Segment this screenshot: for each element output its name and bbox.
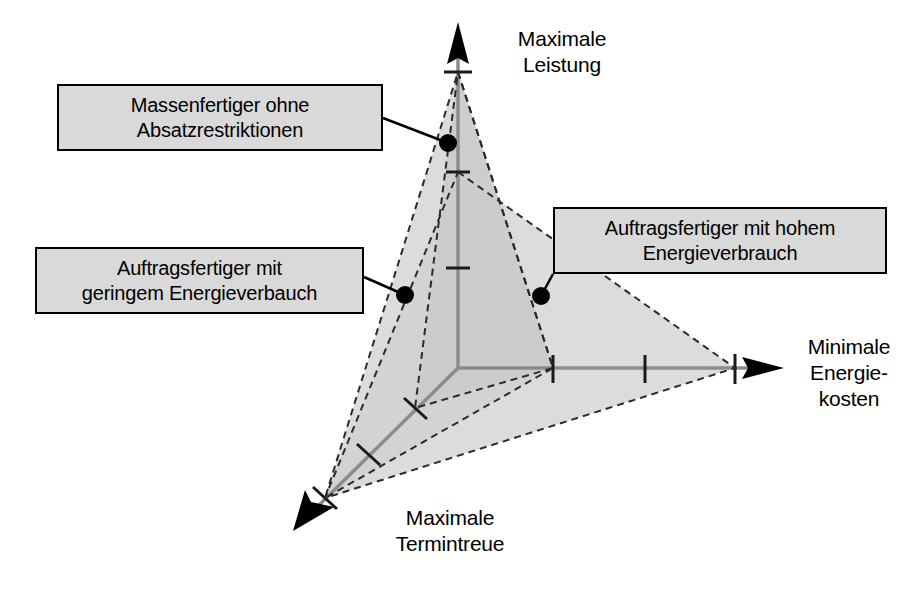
leader-line-massenfertiger	[383, 118, 448, 143]
axis-label-maximale-leistung: Maximale Leistung	[487, 26, 637, 78]
callout-box-geringer-energieverbrauch[interactable]: Auftragsfertiger mit geringem Energiever…	[35, 247, 364, 314]
series-fills	[325, 72, 735, 498]
callout-box-massenfertiger[interactable]: Massenfertiger ohne Absatzrestriktionen	[57, 84, 383, 151]
marker-dot-hoher-verbrauch[interactable]	[532, 287, 550, 305]
figure-canvas: Maximale Leistung Minimale Energie- kost…	[0, 0, 915, 593]
axis-label-minimale-energiekosten: Minimale Energie- kosten	[787, 334, 911, 412]
axis-label-maximale-termintreue: Maximale Termintreue	[355, 505, 545, 557]
arrowhead-energiekosten-icon	[742, 357, 784, 379]
marker-dot-geringer-verbrauch[interactable]	[396, 286, 414, 304]
marker-dot-massenfertiger[interactable]	[439, 134, 457, 152]
arrowhead-leistung-icon	[447, 22, 469, 64]
callout-box-hoher-energieverbrauch[interactable]: Auftragsfertiger mit hohem Energieverbra…	[553, 207, 887, 274]
